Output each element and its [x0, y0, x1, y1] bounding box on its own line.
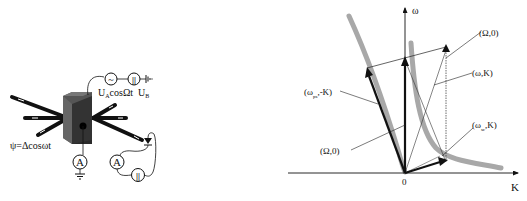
- ac-voltage-label: UAcosΩt: [98, 87, 133, 99]
- k-axis-label: K: [511, 181, 519, 193]
- leader-omega-sc: [442, 128, 473, 156]
- omega-sc-arrowhead: [438, 157, 448, 166]
- ac-symbol: ~: [108, 74, 114, 85]
- ammeter-1: A: [73, 155, 87, 169]
- leader-omega-k: [434, 73, 472, 85]
- dc-voltage-label: UB: [138, 87, 149, 99]
- outgoing-beams: [93, 105, 142, 140]
- label-omega0-left: (Ω,0): [320, 146, 339, 156]
- ammeter-2: A: [110, 155, 124, 169]
- dispersion-diagram: ω K 0 (Ω,0) (ω,K) (ωps,-K) (Ω,0) (ωsc,K): [288, 5, 519, 193]
- sample-block: [63, 92, 92, 144]
- wire-diode-ammeter: [120, 145, 148, 156]
- figure-canvas: ~ || UAcosΩt UB A: [0, 0, 527, 201]
- origin-label: 0: [402, 177, 407, 187]
- wire-ammeter-battery: [117, 169, 131, 175]
- polariton-branch-right: [411, 43, 501, 168]
- leader-omega-ps: [340, 91, 378, 104]
- ground-symbol-bottom: [75, 169, 85, 179]
- omega-axis-label: ω: [412, 5, 419, 16]
- diag-line-1: [405, 60, 446, 162]
- battery-symbol: ||: [136, 171, 140, 181]
- label-omega0-top: (Ω,0): [479, 28, 498, 38]
- bias-battery: ||: [132, 169, 145, 182]
- angle-modulation-label: ψ=Δcosωt: [10, 140, 51, 151]
- dc-voltage-source: ||: [128, 73, 140, 85]
- omega-ps-neg-k-vector: [369, 76, 405, 173]
- incident-beams: [12, 97, 68, 135]
- photodiode: [144, 138, 152, 145]
- ac-voltage-source: ~: [105, 73, 117, 85]
- label-omega-ps-neg-k: (ωps,-K): [304, 87, 332, 99]
- ground-symbol-top: [146, 75, 152, 83]
- ammeter-2-label: A: [113, 156, 121, 168]
- dc-symbol: ||: [132, 75, 136, 85]
- experimental-setup: ~ || UAcosΩt UB A: [10, 73, 156, 182]
- leader-omega0-top: [446, 32, 481, 58]
- label-omega-k: (ω,K): [472, 68, 493, 78]
- ammeter-1-label: A: [76, 156, 84, 168]
- label-omega-sc-k: (ωsc,K): [472, 120, 497, 132]
- omega-sc-k-vector: [405, 162, 440, 173]
